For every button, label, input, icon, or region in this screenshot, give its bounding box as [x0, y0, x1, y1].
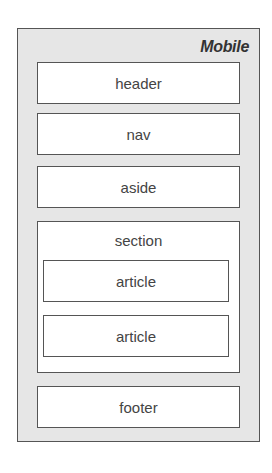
nav-block: nav — [37, 113, 240, 155]
article-block: article — [43, 315, 229, 357]
aside-block: aside — [37, 166, 240, 208]
nav-label: nav — [126, 126, 150, 143]
section-block: section article article — [37, 221, 240, 373]
layout-title: Mobile — [200, 38, 249, 56]
footer-block: footer — [37, 386, 240, 428]
mobile-layout-frame: Mobile header nav aside section article … — [17, 28, 260, 442]
header-block: header — [37, 62, 240, 104]
section-label: section — [38, 232, 239, 249]
header-label: header — [115, 75, 162, 92]
footer-label: footer — [119, 399, 157, 416]
article-block: article — [43, 260, 229, 302]
article-label: article — [116, 273, 156, 290]
article-label: article — [116, 328, 156, 345]
aside-label: aside — [121, 179, 157, 196]
